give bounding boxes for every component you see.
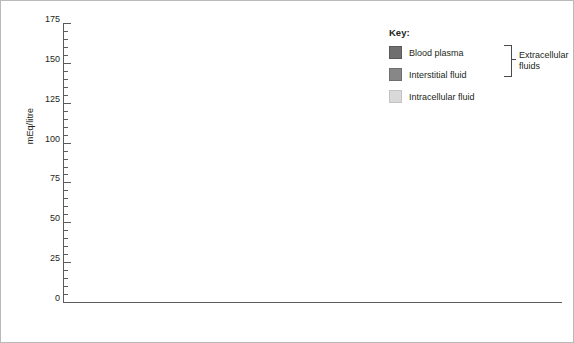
legend: Key: Blood plasma Interstitial fluid Int…: [389, 27, 475, 111]
extracellular-bracket: [504, 45, 512, 77]
y-tick-label: 50: [30, 214, 60, 223]
extracellular-bracket-label: Extracellular fluids: [519, 50, 574, 72]
y-tick-label: 25: [30, 254, 60, 263]
chart-figure: mEq/litre 0255075100125150175 Key: Blood…: [0, 0, 574, 343]
y-tick-label: 0: [30, 294, 60, 303]
legend-item-interstitial-fluid: Interstitial fluid: [389, 67, 475, 82]
plot-area: [64, 23, 562, 303]
legend-label-intracellular-fluid: Intracellular fluid: [409, 92, 475, 102]
legend-swatch-interstitial-fluid: [389, 68, 402, 81]
y-tick-label: 125: [30, 95, 60, 104]
legend-label-blood-plasma: Blood plasma: [409, 48, 464, 58]
legend-item-intracellular-fluid: Intracellular fluid: [389, 89, 475, 104]
legend-swatch-blood-plasma: [389, 46, 402, 59]
bracket-label-line1: Extracellular: [519, 50, 569, 60]
x-axis-baseline: [64, 302, 562, 303]
y-tick-label: 175: [30, 15, 60, 24]
y-tick-label: 100: [30, 135, 60, 144]
bracket-label-line2: fluids: [519, 61, 540, 71]
y-tick-label: 150: [30, 55, 60, 64]
legend-title: Key:: [389, 27, 475, 38]
y-tick-label: 75: [30, 174, 60, 183]
legend-label-interstitial-fluid: Interstitial fluid: [409, 70, 467, 80]
legend-swatch-intracellular-fluid: [389, 90, 402, 103]
extracellular-bracket-stem: [511, 59, 516, 60]
legend-item-blood-plasma: Blood plasma: [389, 45, 475, 60]
